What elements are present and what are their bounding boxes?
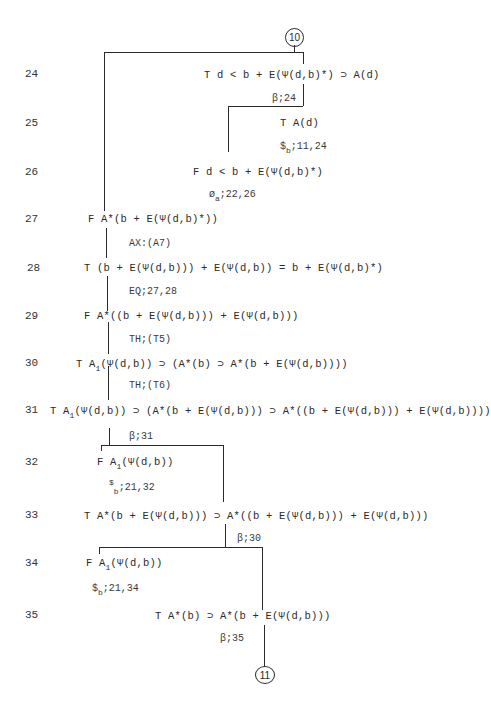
connector-label: 10 [289,32,300,43]
line-number: 33 [25,509,38,521]
proof-formula-34: F A1(Ψ(d,b)) [86,557,163,569]
truth-sign: T [155,610,162,622]
justification-beta-30: β;30 [237,533,261,544]
formula-text: A*(b + E(Ψ(d,b))) ⊃ A*((b + E(Ψ(d,b))) +… [97,510,429,522]
justification-beta-24: β;24 [272,93,296,104]
truth-sign: T [204,69,211,81]
justification-closure-25: $b;11,24 [280,141,327,152]
truth-sign: T [84,262,91,274]
truth-sign: T [50,405,57,417]
line-number: 34 [25,557,38,569]
predicate-subscript: 1 [96,364,101,373]
proof-formula-26: F d < b + E(Ψ(d,b)*) [193,166,323,178]
tree-line [99,547,262,548]
proof-formula-35: T A*(b) ⊃ A*(b + E(Ψ(d,b))) [155,609,331,622]
truth-sign: T [280,117,287,129]
predicate-subscript: 1 [70,411,75,420]
formula-text: (Ψ(d,b)) ⊃ (A*(b + E(Ψ(d,b))) ⊃ A*((b + … [75,405,491,417]
truth-sign: T [76,358,83,370]
proof-formula-27: F A*(b + E(Ψ(d,b)*)) [88,213,218,225]
formula-text: A(d) [293,117,319,129]
tree-line [101,445,102,451]
line-number: 25 [25,117,38,129]
predicate-subscript: 1 [106,563,111,572]
justification-beta-35: β;35 [220,633,244,644]
tree-line [223,445,224,502]
closure-refs: ;21,32 [119,482,155,493]
predicate-subscript: 1 [117,462,122,471]
proof-formula-31: T A1(Ψ(d,b)) ⊃ (A*(b + E(Ψ(d,b))) ⊃ A*((… [50,404,491,417]
justification-beta-31: β;31 [129,431,153,442]
tree-line [294,45,295,52]
proof-formula-28: T (b + E(Ψ(d,b))) + E(Ψ(d,b)) = b + E(Ψ(… [84,262,383,274]
tree-line [101,445,223,446]
truth-sign: F [86,557,93,569]
proof-formula-25: T A(d) [280,117,319,129]
tree-line [99,547,100,554]
formula-text: (Ψ(d,b)) [111,557,163,569]
tree-line [109,428,110,446]
line-number: 35 [25,609,38,621]
proof-formula-29: F A*((b + E(Ψ(d,b))) + E(Ψ(d,b))) [84,310,299,322]
line-number: 27 [25,213,38,225]
closure-subscript: a [215,194,220,203]
line-number: 24 [25,68,38,80]
tree-line [264,625,265,667]
formula-text: (b + E(Ψ(d,b))) + E(Ψ(d,b)) = b + E(Ψ(d,… [97,262,383,274]
line-number: 26 [25,166,38,178]
proof-formula-30: T A1(Ψ(d,b)) ⊃ (A*(b) ⊃ A*(b + E(Ψ(d,b))… [76,357,348,370]
closure-refs: ;11,24 [291,141,327,152]
justification-theorem-29: TH;(T5) [129,334,171,345]
formula-text: (Ψ(d,b)) ⊃ (A*(b) ⊃ A*(b + E(Ψ(d,b)))) [101,358,348,370]
justification-closure-26: øa;22,26 [209,189,256,200]
connector-node-bottom: 11 [255,666,275,684]
proof-formula-32: F A1(Ψ(d,b)) [97,456,174,468]
justification-closure-32: $b;21,32 [109,482,155,493]
closure-symbol: $ [109,478,114,487]
formula-text: d < b + E(Ψ(d,b)*) [206,166,323,178]
truth-sign: F [193,166,200,178]
formula-text: (Ψ(d,b)) [122,456,174,468]
line-number: 28 [27,262,40,274]
tree-line [108,322,109,354]
tree-line [228,106,229,152]
line-number: 29 [25,310,38,322]
tree-line [262,547,263,610]
proof-formula-33: T A*(b + E(Ψ(d,b))) ⊃ A*((b + E(Ψ(d,b)))… [84,509,429,522]
tree-line [104,53,105,211]
tree-line [108,366,109,400]
justification-eq-28: EQ;27,28 [129,286,177,297]
truth-sign: F [84,310,91,322]
truth-sign: T [84,510,91,522]
predicate-name: A [89,358,96,370]
closure-refs: ;22,26 [220,189,256,200]
truth-sign: F [97,456,104,468]
tree-line [228,106,303,107]
closure-subscript: b [98,588,103,597]
closure-subscript: b [286,146,291,155]
line-number: 31 [25,404,38,416]
justification-theorem-30: TH;(T6) [129,380,171,391]
justification-axiom-27: AX:(A7) [129,238,171,249]
closure-refs: ;21,34 [103,583,139,594]
truth-sign: F [88,213,95,225]
tree-line [225,524,226,548]
tree-line [106,228,107,258]
predicate-name: A [99,557,106,569]
predicate-name: A [63,405,70,417]
predicate-name: A [110,456,117,468]
formula-text: A*(b + E(Ψ(d,b)*)) [101,213,218,225]
tree-line [303,84,304,106]
formula-text: A*((b + E(Ψ(d,b))) + E(Ψ(d,b))) [97,310,299,322]
formula-text: A*(b) ⊃ A*(b + E(Ψ(d,b))) [168,610,331,622]
tree-line [107,276,108,311]
line-number: 30 [25,357,38,369]
closure-subscript: b [114,487,119,496]
tree-line [104,52,303,53]
justification-closure-34: $b;21,34 [92,583,139,594]
connector-label: 11 [260,670,270,681]
proof-formula-24: T d < b + E(Ψ(d,b)*) ⊃ A(d) [204,68,380,81]
tree-line [303,52,304,64]
formula-text: d < b + E(Ψ(d,b)*) ⊃ A(d) [217,69,380,81]
line-number: 32 [25,456,38,468]
